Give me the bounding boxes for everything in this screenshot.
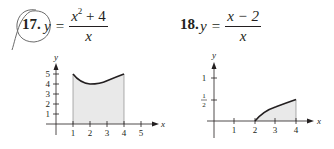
x-tick-label: 1 bbox=[71, 128, 76, 138]
x-tick-label: 1 bbox=[232, 125, 237, 135]
x-tick-label: 4 bbox=[294, 125, 299, 135]
x-axis-arrow-icon bbox=[307, 119, 314, 124]
x-tick-label: 5 bbox=[139, 128, 144, 138]
y-axis-label: y bbox=[53, 52, 58, 62]
graph-17: 1 2 3 4 5 1 2 3 4 5 x y bbox=[46, 52, 166, 138]
graphs: 1 2 3 4 5 1 2 3 4 5 x y 1 bbox=[0, 0, 334, 149]
x-axis-label: x bbox=[316, 116, 321, 126]
graph-18: 1 2 3 4 1 1 2 x y bbox=[201, 50, 321, 138]
x-tick-label: 2 bbox=[88, 128, 93, 138]
y-axis-arrow-icon bbox=[212, 62, 217, 69]
y-tick-label: 5 bbox=[46, 69, 51, 79]
x-tick-label: 4 bbox=[122, 128, 127, 138]
x-tick-label: 2 bbox=[253, 125, 258, 135]
shaded-region bbox=[255, 100, 296, 122]
y-tick-label: 1 bbox=[46, 109, 51, 119]
y-tick-label: 2 bbox=[46, 99, 51, 109]
y-tick-label-half: 1 2 bbox=[201, 92, 207, 109]
svg-text:1: 1 bbox=[202, 92, 206, 100]
y-tick-label: 4 bbox=[46, 79, 51, 89]
y-tick-label: 3 bbox=[46, 89, 51, 99]
svg-text:2: 2 bbox=[202, 101, 206, 109]
y-tick-label: 1 bbox=[202, 73, 207, 83]
x-tick-label: 3 bbox=[105, 128, 110, 138]
y-axis-arrow-icon bbox=[54, 63, 59, 70]
y-axis-label: y bbox=[211, 50, 216, 60]
x-tick-label: 3 bbox=[273, 125, 278, 135]
x-axis-arrow-icon bbox=[152, 122, 159, 127]
x-axis-label: x bbox=[160, 119, 165, 129]
